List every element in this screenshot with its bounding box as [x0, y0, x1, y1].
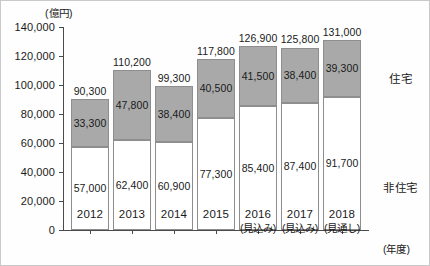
x-axis-label-note: (見込み) [282, 222, 318, 234]
bar-2016: 85,40041,500126,900 [239, 46, 277, 230]
x-axis-label-year: 2013 [119, 208, 145, 222]
legend-item-nonhousing: 非住宅 [383, 179, 418, 195]
bar-2015: 77,30040,500117,800 [197, 59, 235, 230]
bar-2017: 87,40038,400125,800 [281, 48, 319, 230]
y-axis-tick-label: 80,000 [21, 108, 55, 120]
y-axis-unit-label: (億円) [45, 5, 73, 20]
y-axis-tick [59, 143, 64, 144]
x-axis-tick [90, 230, 91, 234]
y-axis-tick [59, 85, 64, 86]
y-axis-tick [59, 230, 64, 231]
y-axis-tick-label: 140,000 [15, 21, 55, 33]
bar-segment-housing: 40,500 [197, 59, 235, 118]
bar-total-label: 99,300 [158, 73, 191, 84]
bar-segment-housing: 38,400 [155, 86, 193, 142]
bar-segment-value-housing: 38,400 [284, 70, 317, 81]
x-axis-label-2015: 2015 [203, 208, 229, 222]
bar-total-label: 117,800 [197, 46, 235, 57]
y-axis-tick-label: 60,000 [21, 137, 55, 149]
bar-segment-housing: 38,400 [281, 48, 319, 104]
bar-segment-value-nonhousing: 57,000 [74, 183, 107, 194]
bar-total-label: 90,300 [74, 86, 107, 97]
bar-segment-value-nonhousing: 91,700 [326, 158, 359, 169]
y-axis-tick-label: 20,000 [21, 195, 55, 207]
x-axis-tick [132, 230, 133, 234]
y-axis-tick [59, 27, 64, 28]
x-axis-label-2017: 2017(見込み) [282, 208, 318, 234]
y-axis-tick [59, 114, 64, 115]
y-axis-tick-label: 100,000 [15, 79, 55, 91]
bar-total-label: 126,900 [239, 33, 278, 44]
x-axis-tick [216, 230, 217, 234]
x-axis-label-note: (見通し) [324, 222, 360, 234]
x-axis-label-year: 2017 [282, 208, 318, 222]
bar-segment-value-housing: 33,300 [74, 118, 107, 129]
bar-segment-value-nonhousing: 77,300 [200, 169, 233, 180]
y-axis-tick-label: 120,000 [15, 50, 55, 62]
y-axis-tick [59, 201, 64, 202]
stacked-bar-chart: (億円) 020,00040,00060,00080,000100,000120… [0, 0, 430, 266]
plot-area: 020,00040,00060,00080,000100,000120,0001… [63, 27, 369, 230]
bar-segment-value-nonhousing: 87,400 [284, 161, 317, 172]
x-axis-label-2014: 2014 [161, 208, 187, 222]
x-axis-label-2013: 2013 [119, 208, 145, 222]
x-axis-label-year: 2018 [324, 208, 360, 222]
bar-segment-value-housing: 38,400 [158, 109, 191, 120]
bar-segment-housing: 33,300 [71, 99, 109, 147]
x-axis-label-note: (見込み) [240, 222, 276, 234]
x-axis-caption: (年度) [383, 241, 410, 256]
x-axis-label-year: 2014 [161, 208, 187, 222]
bar-segment-value-housing: 47,800 [116, 100, 149, 111]
x-axis-label-2018: 2018(見通し) [324, 208, 360, 234]
bar-total-label: 110,200 [113, 57, 151, 68]
y-axis-tick [59, 172, 64, 173]
bar-segment-housing: 39,300 [323, 40, 361, 97]
legend-item-housing: 住宅 [389, 70, 412, 86]
x-axis-label-2012: 2012 [77, 208, 103, 222]
bar-segment-value-housing: 39,300 [326, 63, 359, 74]
bar-total-label: 131,000 [323, 27, 362, 38]
x-axis-tick [174, 230, 175, 234]
y-axis-tick-label: 0 [49, 224, 55, 236]
bar-segment-housing: 41,500 [239, 46, 277, 106]
bar-segment-value-nonhousing: 62,400 [116, 180, 149, 191]
x-axis-label-year: 2015 [203, 208, 229, 222]
bar-total-label: 125,800 [281, 34, 320, 45]
y-axis-tick-label: 40,000 [21, 166, 55, 178]
x-axis-label-year: 2016 [240, 208, 276, 222]
bar-segment-value-housing: 40,500 [200, 83, 233, 94]
x-axis-label-2016: 2016(見込み) [240, 208, 276, 234]
bar-2018: 91,70039,300131,000 [323, 40, 361, 230]
y-axis-tick [59, 56, 64, 57]
bar-segment-housing: 47,800 [113, 70, 151, 139]
bar-segment-value-nonhousing: 85,400 [242, 163, 275, 174]
y-axis-line [63, 27, 64, 230]
x-axis-label-year: 2012 [77, 208, 103, 222]
bar-2013: 62,40047,800110,200 [113, 70, 151, 230]
bar-segment-value-nonhousing: 60,900 [158, 181, 191, 192]
bar-segment-value-housing: 41,500 [242, 71, 275, 82]
